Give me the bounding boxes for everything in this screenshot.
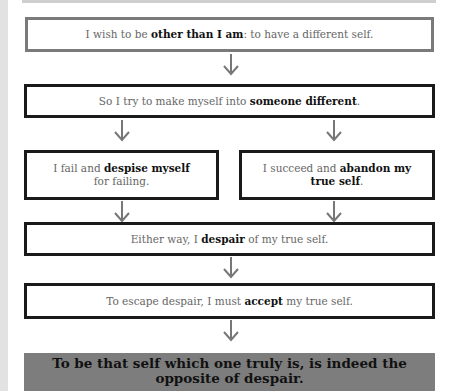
arrow-down-icon: [114, 201, 130, 223]
page-edge: [0, 0, 8, 391]
box-text: Either way, I: [131, 233, 202, 245]
box-fail-despise: I fail and despise myselffor failing.: [24, 150, 219, 200]
conclusion-line-2: opposite of despair.: [155, 371, 303, 386]
arrow-down-icon: [114, 120, 130, 142]
top-rule: [22, 0, 436, 3]
box-text: .: [357, 95, 360, 107]
box-wish-other-self: I wish to be other than I am: to have a …: [25, 17, 434, 52]
box-bold-text: despair: [201, 233, 245, 245]
conclusion-line-1: To be that self which one truly is, is i…: [52, 356, 407, 371]
box-someone-different: So I try to make myself into someone dif…: [24, 84, 435, 118]
arrow-down-icon: [326, 120, 342, 142]
box-bold-text: despise myself: [104, 162, 190, 174]
box-text: I wish to be: [86, 28, 151, 40]
box-text: of my true self.: [245, 233, 328, 245]
arrow-down-icon: [223, 54, 239, 76]
arrow-down-icon: [223, 320, 239, 342]
box-text: I succeed and: [263, 162, 340, 174]
box-bold-text: other than I am: [151, 28, 243, 40]
box-text: my true self.: [283, 295, 353, 307]
box-text: .: [360, 175, 363, 187]
conclusion-banner: To be that self which one truly is, is i…: [24, 353, 435, 391]
box-text: I fail and: [53, 162, 104, 174]
arrow-down-icon: [223, 257, 239, 279]
box-succeed-abandon: I succeed and abandon my true self.: [239, 150, 435, 200]
box-either-way-despair: Either way, I despair of my true self.: [24, 222, 435, 256]
box-text: So I try to make myself into: [99, 95, 250, 107]
arrow-down-icon: [326, 201, 342, 223]
box-bold-text: accept: [244, 295, 282, 307]
box-text: To escape despair, I must: [106, 295, 244, 307]
box-text: : to have a different self.: [243, 28, 373, 40]
box-accept-true-self: To escape despair, I must accept my true…: [24, 283, 435, 319]
box-bold-text: someone different: [250, 95, 357, 107]
box-text: for failing.: [94, 175, 150, 187]
